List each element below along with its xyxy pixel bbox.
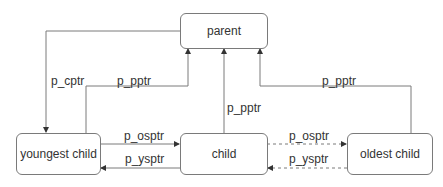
- edge-youngest-to-parent: [86, 49, 188, 133]
- edge-label-p-pptr-left: p_pptr: [117, 75, 151, 87]
- node-parent-label: parent: [207, 24, 241, 38]
- node-youngest-child-label: youngest child: [20, 147, 97, 161]
- edge-label-p-pptr-middle: p_pptr: [227, 102, 261, 114]
- node-youngest-child: youngest child: [16, 133, 101, 175]
- node-parent: parent: [180, 13, 268, 49]
- edge-label-p-pptr-right: p_pptr: [322, 75, 356, 87]
- edge-label-p-osptr-left: p_osptr: [124, 130, 164, 142]
- node-child: child: [180, 133, 268, 175]
- node-oldest-child: oldest child: [347, 133, 433, 175]
- node-child-label: child: [212, 147, 237, 161]
- edge-oldest-to-parent: [260, 49, 411, 133]
- edge-label-p-cptr: p_cptr: [51, 75, 84, 87]
- edge-label-p-osptr-right: p_osptr: [289, 130, 329, 142]
- node-oldest-child-label: oldest child: [360, 147, 420, 161]
- edge-label-p-ysptr-right: p_ysptr: [289, 153, 328, 165]
- edge-label-p-ysptr-left: p_ysptr: [125, 153, 164, 165]
